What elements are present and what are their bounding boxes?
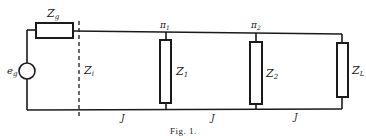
line-section-3-label: J bbox=[292, 112, 299, 122]
zl-label: ZL bbox=[351, 64, 365, 78]
figure-caption: Fig. 1. bbox=[170, 126, 197, 136]
zg-label: Zg bbox=[46, 7, 60, 21]
line-section-2-label: J bbox=[209, 113, 216, 123]
zl-resistor bbox=[337, 43, 348, 97]
bottom-wire bbox=[27, 109, 342, 110]
zi-label: Zi bbox=[83, 64, 94, 78]
z1-resistor bbox=[160, 40, 171, 103]
zg-resistor bbox=[36, 23, 73, 38]
top-wire bbox=[73, 31, 342, 34]
line-section-1-label: J bbox=[119, 113, 126, 123]
z1-label: Z1 bbox=[175, 65, 188, 79]
z2-label: Z2 bbox=[265, 67, 279, 81]
z2-resistor bbox=[250, 42, 262, 104]
node-pi1-label: π1 bbox=[159, 20, 170, 31]
voltage-source-icon bbox=[19, 63, 35, 79]
circuit-diagram: Zg eg Zi π1 π2 Z1 Z2 ZL J J J Fig. 1. bbox=[0, 0, 366, 140]
node-pi2-label: π2 bbox=[250, 20, 261, 31]
eg-label: eg bbox=[7, 65, 18, 78]
